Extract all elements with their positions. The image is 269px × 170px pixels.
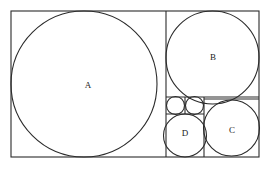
figure-container: ABCD	[0, 0, 269, 170]
label-b: B	[210, 52, 216, 62]
label-c: C	[229, 125, 235, 135]
squared-rectangle-diagram: ABCD	[0, 0, 269, 170]
label-a: A	[85, 80, 92, 90]
label-d: D	[182, 128, 189, 138]
